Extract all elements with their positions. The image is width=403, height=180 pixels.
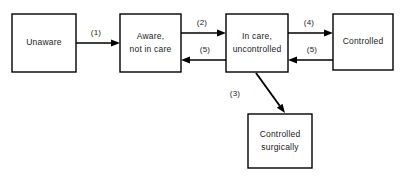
node-controlled-surgically[interactable]: Controlledsurgically — [248, 114, 312, 168]
node-label-in-care-uncontrolled: In care, — [242, 31, 272, 41]
arrow-head — [288, 57, 297, 64]
edge-label-edge-5b: (5) — [307, 45, 318, 54]
edge-aware-to-in-care — [181, 30, 226, 37]
node-label-aware-not-in-care: not in care — [130, 44, 172, 54]
edge-label-edge-1: (1) — [91, 28, 102, 37]
node-label-in-care-uncontrolled: uncontrolled — [233, 44, 282, 54]
care-continuum-flow-diagram: UnawareAware,not in careIn care,uncontro… — [0, 0, 403, 180]
node-label-aware-not-in-care: Aware, — [137, 31, 165, 41]
node-controlled[interactable]: Controlled — [333, 14, 393, 70]
arrow-head — [111, 40, 120, 47]
edge-label-edge-4: (4) — [304, 18, 315, 27]
edge-label-edge-2: (2) — [197, 18, 208, 27]
edge-label-edge-5a: (5) — [200, 45, 211, 54]
edge-label-edge-3: (3) — [230, 89, 241, 98]
node-label-unaware: Unaware — [26, 37, 61, 47]
node-in-care-uncontrolled[interactable]: In care,uncontrolled — [226, 14, 288, 72]
edge-shaft — [256, 73, 280, 106]
node-label-controlled-surgically: Controlled — [260, 129, 301, 139]
edge-in-care-to-controlled — [288, 30, 333, 37]
node-label-controlled-surgically: surgically — [261, 142, 299, 152]
arrow-head — [181, 57, 190, 64]
edge-controlled-to-in-care — [288, 57, 333, 64]
edge-in-care-to-aware — [181, 57, 226, 64]
node-label-controlled: Controlled — [343, 36, 384, 46]
diagram-canvas: UnawareAware,not in careIn care,uncontro… — [0, 0, 403, 180]
edge-unaware-to-aware — [76, 40, 120, 47]
node-unaware[interactable]: Unaware — [12, 14, 76, 72]
edges-layer — [76, 30, 333, 114]
nodes-layer: UnawareAware,not in careIn care,uncontro… — [12, 14, 393, 168]
edge-in-care-to-controlled-surgically — [256, 73, 285, 113]
arrow-head — [324, 30, 333, 37]
arrow-head — [217, 30, 226, 37]
node-aware-not-in-care[interactable]: Aware,not in care — [120, 14, 181, 72]
